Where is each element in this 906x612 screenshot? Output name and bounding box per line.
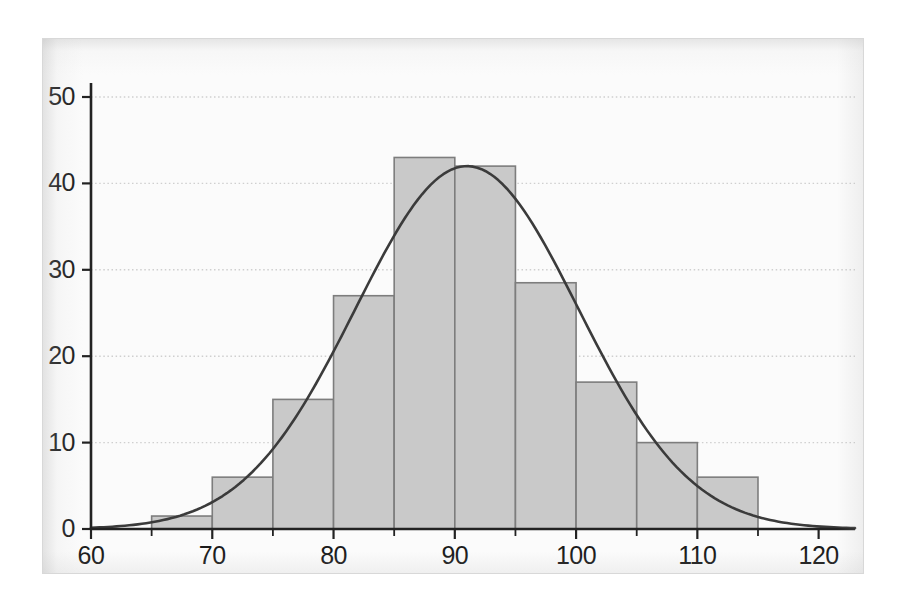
x-tick-label-70: 70	[172, 543, 252, 568]
histogram-bar	[455, 166, 516, 529]
y-tick-label-20: 20	[43, 343, 75, 368]
y-tick-label-10: 10	[43, 430, 75, 455]
x-tick-label-100: 100	[536, 543, 616, 568]
histogram-bar	[515, 283, 576, 529]
y-tick-label-30: 30	[43, 257, 75, 282]
histogram-bar	[697, 477, 758, 529]
x-tick-label-120: 120	[779, 543, 859, 568]
x-tick-label-90: 90	[415, 543, 495, 568]
histogram-plot	[43, 39, 865, 575]
x-tick-label-80: 80	[294, 543, 374, 568]
histogram-bar	[212, 477, 273, 529]
histogram-bar	[576, 382, 637, 529]
histogram-bar	[273, 399, 334, 529]
histogram-bar	[394, 157, 455, 529]
chart-figure: 0102030405060708090100110120	[42, 38, 864, 574]
y-tick-label-40: 40	[43, 170, 75, 195]
y-tick-label-0: 0	[43, 516, 75, 541]
histogram-bar	[334, 296, 395, 529]
histogram-bar	[152, 516, 213, 529]
x-tick-label-110: 110	[657, 543, 737, 568]
y-tick-label-50: 50	[43, 84, 75, 109]
x-tick-label-60: 60	[51, 543, 131, 568]
